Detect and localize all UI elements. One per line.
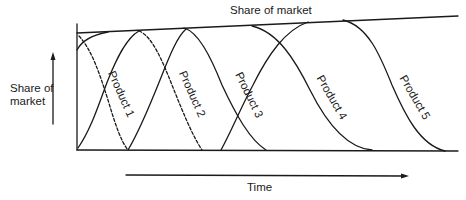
product-4-rise-curve	[221, 22, 308, 150]
product-5-decline-curve	[343, 20, 445, 151]
x-axis-baseline	[77, 150, 458, 151]
y-axis-arrowhead-icon	[51, 52, 56, 60]
product-lifecycle-diagram	[0, 0, 466, 200]
product-1-rise-curve	[77, 32, 108, 50]
x-axis-label: Time	[247, 181, 272, 194]
product-2-rise-curve	[78, 31, 139, 148]
total-share-line	[77, 16, 458, 33]
x-axis-arrow-shaft	[126, 175, 404, 176]
product-4-decline-curve	[252, 26, 372, 150]
y-axis-label-line1: Share of	[10, 82, 53, 95]
product-3-rise-curve	[128, 29, 186, 150]
y-axis-label: Share of market	[10, 82, 53, 108]
x-axis-arrowhead-icon	[401, 174, 409, 179]
y-axis-label-line2: market	[10, 95, 53, 108]
top-share-label: Share of market	[230, 4, 312, 17]
